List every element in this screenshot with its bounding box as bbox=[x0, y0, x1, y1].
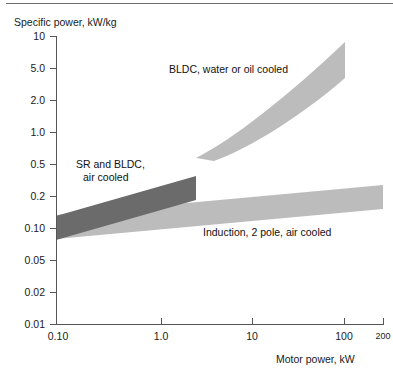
chart-figure: Specific power, kW/kg Motor power, kW BL… bbox=[0, 0, 393, 377]
x-tick-label: 100 bbox=[335, 330, 353, 342]
y-tick-label: 0.5 bbox=[30, 158, 45, 170]
x-axis-line bbox=[56, 324, 384, 325]
y-tick-label: 0.01 bbox=[25, 318, 45, 330]
y-tick-mark bbox=[50, 36, 56, 37]
y-tick-mark bbox=[50, 68, 56, 69]
y-tick-mark bbox=[50, 164, 56, 165]
x-tick-mark bbox=[161, 318, 162, 324]
y-axis-line bbox=[56, 36, 57, 325]
y-tick-mark bbox=[50, 100, 56, 101]
y-tick-label: 0.02 bbox=[25, 286, 45, 298]
y-tick-label: 1.0 bbox=[30, 126, 45, 138]
y-tick-mark bbox=[50, 292, 56, 293]
y-tick-mark bbox=[50, 228, 56, 229]
x-tick-label: 200 bbox=[375, 331, 390, 341]
x-tick-mark bbox=[344, 318, 345, 324]
y-tick-label: 0.10 bbox=[25, 222, 45, 234]
x-tick-mark bbox=[252, 318, 253, 324]
y-tick-mark bbox=[50, 132, 56, 133]
y-tick-mark bbox=[50, 324, 56, 325]
x-tick-mark bbox=[383, 318, 384, 324]
axis-layer: 10 5.0 2.0 1.0 0.5 0.2 0.10 0.05 0.02 0.… bbox=[0, 0, 393, 377]
x-tick-label: 0.10 bbox=[48, 330, 68, 342]
y-tick-mark bbox=[50, 196, 56, 197]
y-tick-label: 0.05 bbox=[25, 254, 45, 266]
y-tick-label: 2.0 bbox=[30, 94, 45, 106]
x-tick-label: 1.0 bbox=[154, 330, 169, 342]
x-tick-mark bbox=[56, 318, 57, 324]
y-tick-mark bbox=[50, 260, 56, 261]
x-tick-label: 10 bbox=[246, 330, 258, 342]
y-tick-label: 0.2 bbox=[30, 190, 45, 202]
y-tick-label: 10 bbox=[33, 30, 45, 42]
y-tick-label: 5.0 bbox=[30, 62, 45, 74]
